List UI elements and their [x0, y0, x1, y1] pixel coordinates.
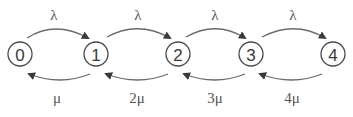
- arrow-2-to-1: [106, 74, 168, 80]
- arrow-2-to-3: [186, 29, 245, 38]
- state-label: 4: [328, 46, 337, 65]
- state-node-3: 3: [239, 42, 263, 66]
- rate-label-lambda: λ: [289, 7, 297, 23]
- arrow-3-to-2: [184, 74, 245, 80]
- rate-label-lambda: λ: [134, 7, 142, 23]
- state-node-0: 0: [8, 42, 32, 66]
- state-node-4: 4: [321, 42, 345, 66]
- state-node-2: 2: [166, 42, 190, 66]
- rate-label-lambda: λ: [50, 7, 58, 23]
- state-label: 3: [246, 46, 255, 65]
- rate-label-3mu: 3μ: [207, 90, 223, 106]
- rate-label-2mu: 2μ: [129, 90, 145, 106]
- rate-label-mu: μ: [53, 90, 61, 106]
- arrow-3-to-4: [262, 29, 325, 38]
- backward-edges: [29, 74, 322, 80]
- arrow-1-to-0: [29, 74, 90, 80]
- forward-edges: [27, 29, 325, 38]
- arrow-0-to-1: [27, 29, 88, 38]
- state-node-1: 1: [84, 42, 108, 66]
- state-label: 2: [173, 46, 182, 65]
- arrow-1-to-2: [107, 29, 170, 38]
- rate-label-lambda: λ: [211, 7, 219, 23]
- arrow-4-to-3: [260, 74, 322, 80]
- state-label: 1: [91, 46, 100, 65]
- state-label: 0: [15, 46, 24, 65]
- birth-death-diagram: 0 1 2 3 4 λ λ λ λ μ 2μ 3μ 4μ: [0, 0, 353, 117]
- rate-label-4mu: 4μ: [284, 90, 300, 106]
